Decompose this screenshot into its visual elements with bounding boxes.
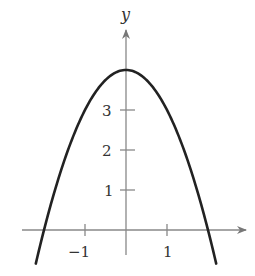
y-ticks: 1 2 3 (102, 102, 135, 200)
x-tick-label: 1 (163, 243, 173, 261)
y-axis-label: y (120, 5, 131, 24)
y-tick-label: 2 (102, 142, 112, 160)
y-tick-label: 3 (102, 102, 112, 120)
x-tick-label: −1 (68, 243, 90, 261)
chart: y −1 1 1 2 3 (0, 0, 255, 276)
y-tick-label: 1 (104, 182, 114, 200)
